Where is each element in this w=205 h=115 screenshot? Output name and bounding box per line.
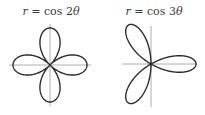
plot-cos3theta: r = cos 3θ [103,0,205,115]
rose-plot-3-petal [103,0,205,115]
plot-cos2theta: r = cos 2θ [0,0,102,115]
rose-plot-4-petal [0,0,102,115]
